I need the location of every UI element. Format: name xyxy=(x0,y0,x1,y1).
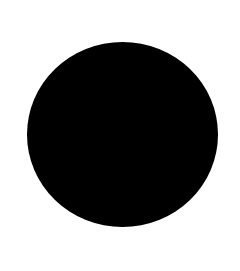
canvas xyxy=(0,0,240,271)
black-circle-shape xyxy=(27,42,218,227)
